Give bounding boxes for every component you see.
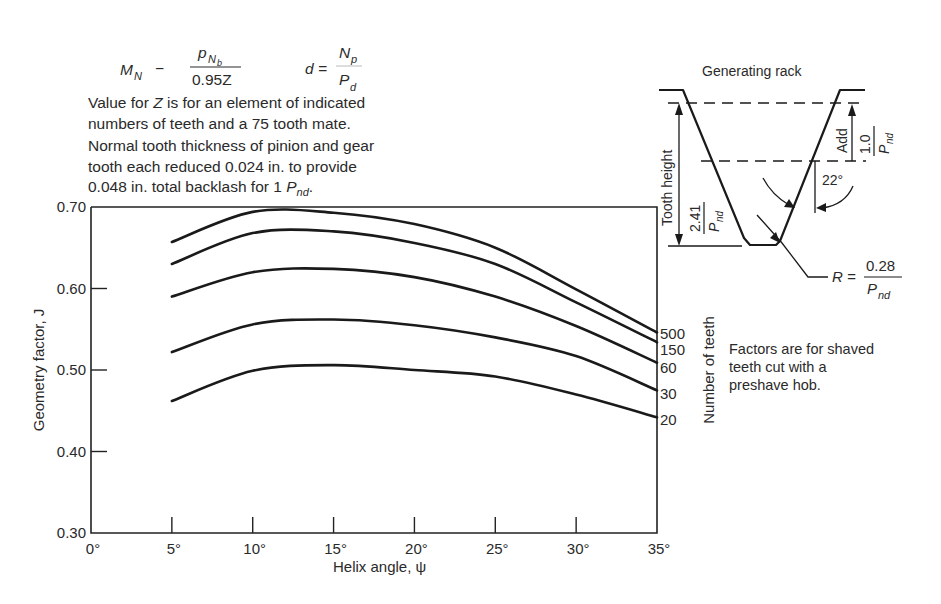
- note-line-5: 0.048 in. total backlash for 1 Pnd.: [88, 178, 313, 198]
- addendum-fraction: 1.0 P nd: [857, 126, 895, 156]
- formula-mn-lhs: M: [120, 61, 133, 78]
- x-tick-label: 30°: [567, 540, 590, 557]
- formula-d-denominator-sub: d: [350, 81, 357, 93]
- note-line-2: numbers of teeth and a 75 tooth mate.: [88, 115, 351, 132]
- fillet-radius-denominator-sub: nd: [878, 289, 891, 301]
- fillet-radius-arrowhead: [770, 232, 780, 243]
- pressure-angle-arc-right: [822, 186, 853, 208]
- y-tick-label: 0.70: [57, 198, 86, 215]
- x-tick-label: 5°: [167, 540, 181, 557]
- tooth-height-arrowhead-bottom: [675, 234, 683, 246]
- formula-mn-denominator: 0.95Z: [192, 71, 232, 88]
- addendum-denominator-sub: nd: [884, 132, 895, 144]
- addendum-label: Add: [834, 128, 850, 153]
- x-tick-label: 35°: [648, 540, 671, 557]
- side-note: Factors are for shaved teeth cut with a …: [729, 341, 874, 393]
- x-axis-ticks: 0°5°10°15°20°25°30°35°: [86, 517, 671, 557]
- tooth-height-numerator: 2.41: [687, 205, 703, 232]
- pressure-angle-label: 22°: [822, 172, 843, 188]
- formula-d-numerator: N: [339, 44, 351, 61]
- tooth-height-denominator-sub: nd: [714, 210, 725, 222]
- formula-d-lhs: d =: [305, 60, 327, 77]
- series-labels: 500150603020: [660, 325, 685, 428]
- side-note-line-3: preshave hob.: [729, 377, 821, 393]
- curve-20-teeth: [172, 365, 657, 417]
- formula-mn: M N − p N b 0.95Z: [120, 44, 241, 88]
- tooth-height-label: Tooth height: [659, 150, 675, 226]
- x-tick-label: 20°: [405, 540, 428, 557]
- note-line-1: Value for Z is for an element of indicat…: [88, 94, 365, 111]
- y-tick-label: 0.40: [57, 443, 86, 460]
- chart: 0.300.400.500.600.70 0°5°10°15°20°25°30°…: [30, 198, 717, 575]
- curve-60-teeth: [172, 268, 657, 362]
- fillet-radius-denominator: P: [867, 280, 877, 297]
- y-tick-label: 0.60: [57, 280, 86, 297]
- rack-diagram: Generating rack Tooth height 2.41 P nd A…: [659, 63, 902, 301]
- x-tick-label: 15°: [324, 540, 347, 557]
- note-line-4: tooth each reduced 0.024 in. to provide: [88, 158, 357, 175]
- x-tick-label: 10°: [243, 540, 266, 557]
- header-notes: Value for Z is for an element of indicat…: [88, 94, 374, 198]
- formula-mn-operator: −: [155, 60, 164, 77]
- legend-title: Number of teeth: [700, 316, 717, 424]
- rack-title: Generating rack: [702, 63, 803, 79]
- curve-500-teeth: [172, 209, 657, 332]
- formula-d-numerator-sub: p: [350, 53, 357, 65]
- note-line-3: Normal tooth thickness of pinion and gea…: [88, 137, 374, 154]
- figure: M N − p N b 0.95Z d = N p P d Value for …: [0, 0, 941, 604]
- series-label-20: 20: [660, 411, 677, 428]
- formula-mn-numerator-sub: N: [208, 53, 216, 65]
- fillet-radius-lhs: R =: [832, 268, 856, 285]
- addendum-denominator: P: [876, 144, 892, 154]
- series-label-60: 60: [660, 359, 677, 376]
- y-axis-ticks: 0.300.400.500.600.70: [57, 198, 107, 541]
- pressure-angle-arrowhead-right: [816, 203, 826, 212]
- side-note-line-2: teeth cut with a: [729, 359, 827, 375]
- fillet-radius-numerator: 0.28: [866, 257, 895, 274]
- side-note-line-1: Factors are for shaved: [729, 341, 874, 357]
- series-label-150: 150: [660, 341, 685, 358]
- formula-d: d = N p P d: [305, 44, 362, 93]
- formula-mn-numerator: p: [197, 44, 207, 61]
- tooth-height-fraction: 2.41 P nd: [687, 202, 725, 234]
- formula-mn-lhs-sub: N: [134, 70, 142, 82]
- pressure-angle-arc-left: [763, 178, 789, 205]
- formula-d-denominator: P: [339, 71, 350, 88]
- y-tick-label: 0.30: [57, 524, 86, 541]
- y-tick-label: 0.50: [57, 361, 86, 378]
- x-tick-label: 25°: [486, 540, 509, 557]
- tooth-height-denominator: P: [706, 222, 722, 232]
- series-label-30: 30: [660, 385, 677, 402]
- curves: [172, 209, 657, 417]
- addendum-numerator: 1.0: [857, 134, 873, 154]
- x-axis-label: Helix angle, ψ: [333, 558, 426, 575]
- y-axis-label: Geometry factor, J: [30, 309, 47, 432]
- addendum-arrowhead: [848, 104, 856, 116]
- series-label-500: 500: [660, 325, 685, 342]
- plot-frame: [91, 207, 657, 533]
- x-tick-label: 0°: [86, 540, 100, 557]
- tooth-height-arrowhead-top: [675, 103, 683, 115]
